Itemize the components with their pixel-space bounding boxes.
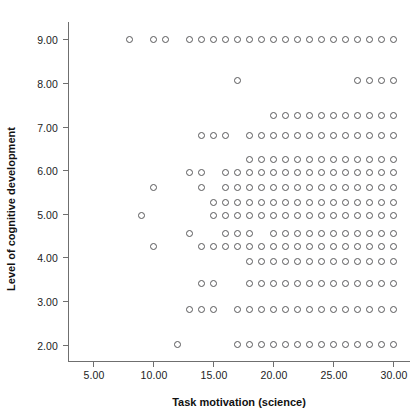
data-point (186, 36, 193, 43)
data-point (378, 212, 385, 219)
data-point (294, 36, 301, 43)
data-point (186, 169, 193, 176)
data-point (378, 169, 385, 176)
data-point (330, 169, 337, 176)
data-point (150, 184, 157, 191)
data-point (270, 212, 277, 219)
plot-area: 2.003.004.005.006.007.008.009.00 5.0010.… (68, 22, 410, 362)
data-point (366, 169, 373, 176)
data-point (342, 306, 349, 313)
y-axis-tick-label: 3.00 (37, 296, 58, 308)
data-point (330, 132, 337, 139)
data-point (330, 112, 337, 119)
data-point (246, 199, 253, 206)
data-point (306, 184, 313, 191)
y-axis-tick-label: 9.00 (37, 34, 58, 46)
data-point (306, 36, 313, 43)
data-point (222, 243, 229, 250)
data-point (306, 306, 313, 313)
data-point (330, 341, 337, 348)
data-point (270, 258, 277, 265)
data-point (222, 230, 229, 237)
data-point (126, 36, 133, 43)
data-point (330, 306, 337, 313)
data-point (258, 184, 265, 191)
data-point (366, 280, 373, 287)
data-point (234, 199, 241, 206)
data-point (390, 169, 397, 176)
data-point (246, 280, 253, 287)
data-point (366, 199, 373, 206)
data-point (246, 212, 253, 219)
data-point (258, 156, 265, 163)
data-point (354, 156, 361, 163)
data-points-layer (69, 22, 410, 361)
data-point (330, 156, 337, 163)
data-point (306, 341, 313, 348)
data-point (234, 212, 241, 219)
data-point (270, 243, 277, 250)
data-point (258, 199, 265, 206)
data-point (246, 169, 253, 176)
data-point (354, 36, 361, 43)
scatter-plot-figure: 2.003.004.005.006.007.008.009.00 5.0010.… (0, 0, 419, 418)
data-point (378, 184, 385, 191)
data-point (330, 184, 337, 191)
data-point (318, 156, 325, 163)
data-point (378, 243, 385, 250)
data-point (234, 306, 241, 313)
data-point (318, 112, 325, 119)
data-point (294, 156, 301, 163)
data-point (342, 341, 349, 348)
data-point (306, 258, 313, 265)
data-point (210, 212, 217, 219)
x-axis-tick: 5.00 (93, 361, 94, 367)
data-point (270, 199, 277, 206)
data-point (270, 280, 277, 287)
data-point (366, 156, 373, 163)
data-point (222, 169, 229, 176)
y-axis-tick-label: 2.00 (37, 340, 58, 352)
data-point (342, 184, 349, 191)
data-point (378, 199, 385, 206)
data-point (318, 132, 325, 139)
data-point (378, 156, 385, 163)
data-point (258, 212, 265, 219)
data-point (294, 230, 301, 237)
data-point (270, 230, 277, 237)
data-point (282, 258, 289, 265)
data-point (366, 112, 373, 119)
data-point (342, 230, 349, 237)
data-point (282, 184, 289, 191)
data-point (354, 112, 361, 119)
data-point (294, 199, 301, 206)
data-point (210, 280, 217, 287)
y-axis-tick-label: 8.00 (37, 78, 58, 90)
data-point (318, 258, 325, 265)
data-point (210, 36, 217, 43)
data-point (234, 36, 241, 43)
y-axis-tick-label: 6.00 (37, 165, 58, 177)
data-point (378, 77, 385, 84)
data-point (258, 280, 265, 287)
data-point (234, 77, 241, 84)
data-point (270, 306, 277, 313)
data-point (378, 341, 385, 348)
data-point (294, 184, 301, 191)
data-point (390, 280, 397, 287)
data-point (282, 212, 289, 219)
data-point (282, 230, 289, 237)
data-point (366, 306, 373, 313)
data-point (318, 199, 325, 206)
data-point (378, 112, 385, 119)
data-point (342, 199, 349, 206)
data-point (342, 212, 349, 219)
data-point (198, 132, 205, 139)
data-point (318, 184, 325, 191)
data-point (270, 184, 277, 191)
data-point (390, 36, 397, 43)
data-point (282, 280, 289, 287)
data-point (294, 306, 301, 313)
data-point (390, 199, 397, 206)
data-point (390, 212, 397, 219)
